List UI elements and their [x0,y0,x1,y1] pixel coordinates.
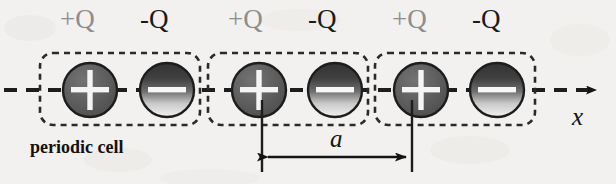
plus-sign-icon [418,70,423,110]
charge-label-positive-1: +Q [60,6,95,33]
charge-label-negative-2: -Q [308,6,337,33]
minus-sign-icon [478,87,516,92]
charge-negative [140,63,194,117]
physics-diagram-periodic-lattice: +Q -Q +Q -Q +Q -Q periodic cell a x [0,0,616,184]
charge-positive [63,63,117,117]
charge-negative [308,63,362,117]
charge-label-positive-3: +Q [392,6,427,33]
minus-sign-icon [148,87,186,92]
charge-negative [470,63,524,117]
charge-label-negative-1: -Q [140,6,169,33]
plus-sign-icon [87,70,92,110]
charge-label-negative-3: -Q [472,6,501,33]
charge-positive [394,63,448,117]
x-axis-label: x [572,104,583,129]
charge-label-positive-2: +Q [228,6,263,33]
lattice-constant-label: a [330,126,343,151]
periodic-cell-caption: periodic cell [30,138,123,156]
minus-sign-icon [316,87,354,92]
charge-positive [232,63,286,117]
